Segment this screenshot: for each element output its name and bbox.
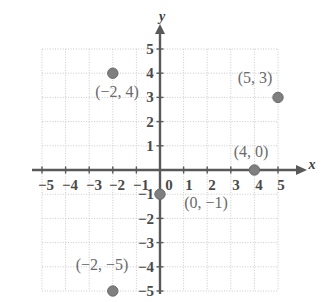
- x-axis-tick-label: 5: [277, 178, 285, 193]
- point-coordinate-label: (4, 0): [234, 144, 269, 160]
- data-point: [108, 286, 118, 296]
- x-axis-tick-label: 3: [232, 178, 240, 193]
- x-axis-tick-label: −3: [86, 178, 102, 193]
- data-point: [155, 189, 165, 199]
- y-axis-tick-label: −2: [138, 212, 154, 227]
- coordinate-grid-svg: [0, 0, 328, 302]
- point-coordinate-label: (0, −1): [184, 195, 228, 211]
- data-point: [108, 68, 118, 78]
- axis-name-label: x: [309, 158, 316, 172]
- x-axis-tick-label: 2: [208, 178, 216, 193]
- x-axis-tick-label: −4: [62, 178, 78, 193]
- y-axis-tick-label: −4: [138, 260, 154, 275]
- y-axis-arrowhead: [155, 24, 165, 34]
- x-axis-tick-label: 0: [165, 178, 173, 193]
- x-axis-tick-label: 1: [185, 178, 193, 193]
- y-axis-tick-label: −1: [138, 187, 154, 202]
- y-axis-tick-label: 4: [146, 66, 154, 81]
- point-coordinate-label: (−2, 4): [95, 84, 139, 100]
- y-axis-tick-label: 2: [146, 115, 154, 130]
- x-axis-tick-label: 4: [255, 178, 263, 193]
- y-axis-tick-label: 3: [146, 90, 154, 105]
- x-axis-tick-label: −5: [38, 178, 54, 193]
- y-axis-tick-label: 1: [146, 139, 154, 154]
- y-axis-tick-label: −5: [138, 284, 154, 299]
- y-axis-tick-label: 5: [146, 42, 154, 57]
- x-axis-arrowhead: [296, 165, 307, 175]
- x-axis-tick-label: −2: [109, 178, 125, 193]
- data-point: [273, 92, 283, 102]
- data-point: [249, 165, 259, 175]
- axis-name-label: y: [159, 10, 165, 24]
- point-coordinate-label: (−2, −5): [76, 257, 129, 273]
- point-coordinate-label: (5, 3): [238, 70, 273, 86]
- coordinate-plane-figure: −5−4−3−2−1012345 54321−1−2−3−4−5 (−2, 4)…: [0, 0, 328, 302]
- y-axis-tick-label: −3: [138, 236, 154, 251]
